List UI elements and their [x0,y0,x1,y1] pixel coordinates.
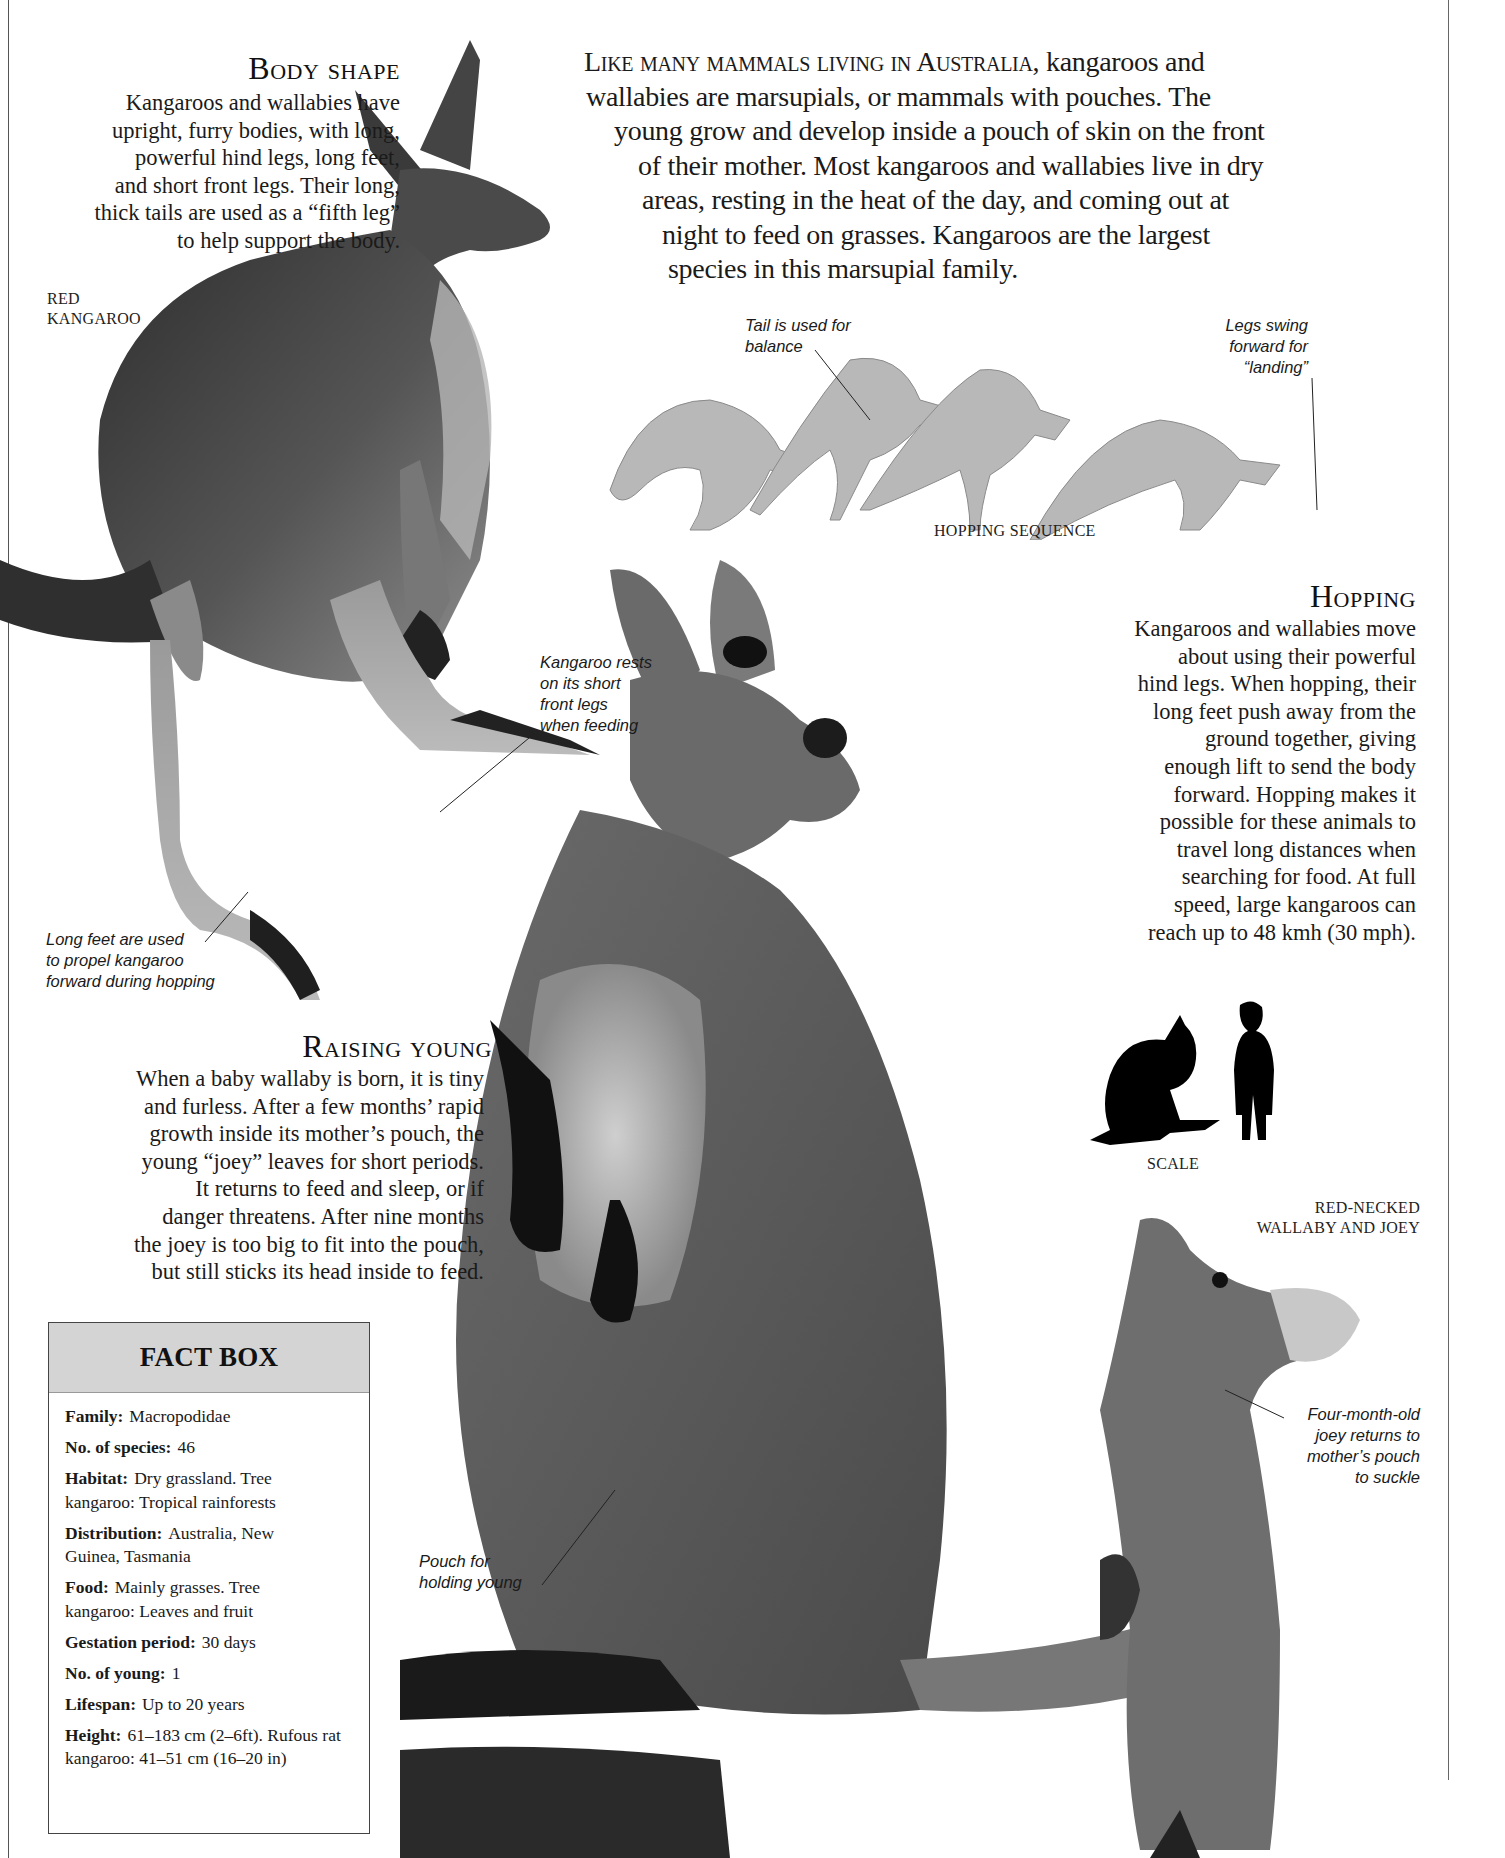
body-shape-section: Body shape Kangaroos and wallabies have … [30,52,400,255]
intro-lead: Like many mammals living in Australia, [584,46,1039,77]
section-heading-hopping: Hopping [1060,580,1416,612]
wallaby-and-joey-label: RED-NECKED WALLABY AND JOEY [1180,1198,1420,1238]
hopping-sequence-label: HOPPING SEQUENCE [934,521,1096,541]
fact-item: Lifespan:Up to 20 years [65,1693,355,1717]
section-heading-body-shape: Body shape [30,52,400,84]
fact-item: Height:61–183 cm (2–6ft). Rufous rat kan… [65,1724,355,1771]
fact-item: No. of species:46 [65,1436,355,1460]
hopping-text: Kangaroos and wallabies move about using… [1060,615,1416,946]
annotation-pouch: Pouch for holding young [419,1551,522,1593]
red-kangaroo-label: RED KANGAROO [47,289,141,329]
section-heading-raising-young: Raising young [30,1030,492,1062]
annotation-tail-balance: Tail is used for balance [745,315,851,357]
annotation-legs-landing: Legs swing forward for “landing” [1180,315,1308,378]
intro-paragraph: Like many mammals living in Australia, k… [572,45,1402,287]
raising-young-text: When a baby wallaby is born, it is tiny … [30,1065,492,1286]
scale-label: SCALE [1147,1154,1199,1174]
fact-item: Distribution:Australia, New Guinea, Tasm… [65,1522,355,1569]
fact-item: Habitat:Dry grassland. Tree kangaroo: Tr… [65,1467,355,1514]
hopping-section: Hopping Kangaroos and wallabies move abo… [1060,580,1416,946]
annotation-front-legs: Kangaroo rests on its short front legs w… [540,652,652,736]
fact-item: Gestation period:30 days [65,1631,355,1655]
fact-item: No. of young:1 [65,1662,355,1686]
fact-box-title: FACT BOX [49,1323,369,1393]
fact-item: Family:Macropodidae [65,1405,355,1429]
annotation-joey: Four-month-old joey returns to mother’s … [1260,1404,1420,1488]
fact-item: Food:Mainly grasses. Tree kangaroo: Leav… [65,1576,355,1623]
fact-box: FACT BOX Family:Macropodidae No. of spec… [48,1322,370,1834]
raising-young-section: Raising young When a baby wallaby is bor… [30,1030,492,1286]
fact-list: Family:Macropodidae No. of species:46 Ha… [49,1393,369,1771]
body-shape-text: Kangaroos and wallabies have upright, fu… [30,89,400,255]
annotation-long-feet: Long feet are used to propel kangaroo fo… [46,929,215,992]
